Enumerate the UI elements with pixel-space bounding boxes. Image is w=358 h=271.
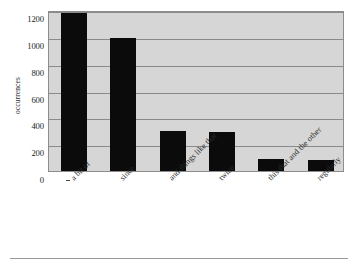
y-axis-tick-labels: 020040060080010001200 (22, 8, 44, 173)
y-tick-label: 200 (22, 149, 44, 158)
y-tick-label: 0 (22, 176, 44, 185)
footer-horizontal-rule (10, 258, 348, 259)
x-axis-category-labels: a bit ofsinceand things like thattwiceth… (48, 173, 344, 253)
y-tick-label: 1200 (22, 15, 44, 24)
y-tick-label: 400 (22, 122, 44, 131)
y-tick-label: 1000 (22, 41, 44, 50)
y-tick-label: 800 (22, 68, 44, 77)
bar (110, 38, 136, 171)
bar-chart-figure: occurrences 020040060080010001200 a bit … (0, 0, 358, 271)
y-tick-label: 600 (22, 95, 44, 104)
bar (61, 13, 87, 171)
